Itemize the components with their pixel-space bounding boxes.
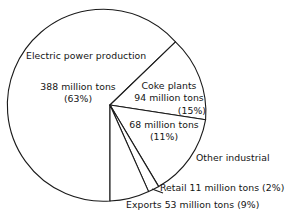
slice-value-electric-power-production: 388 million tons (63%): [26, 81, 130, 106]
slice-label-title: Retail 11 million tons (2%): [160, 182, 284, 194]
slice-label-title: Coke plants: [132, 80, 206, 92]
slice-value-tons: 94 million tons: [132, 92, 206, 104]
slice-label-retail: Retail 11 million tons (2%): [160, 182, 284, 194]
slice-label-title: Exports 53 million tons (9%): [126, 199, 259, 211]
slice-label-title: Electric power production: [26, 50, 146, 62]
slice-value-percent: (15%): [132, 105, 206, 117]
slice-value-percent: (63%): [26, 93, 130, 105]
slice-label-electric-power-production: Electric power production: [26, 50, 146, 62]
slice-value-tons: 388 million tons: [26, 81, 130, 93]
slice-label-coke-plants: Coke plants 94 million tons (15%): [132, 80, 206, 117]
slice-value-other-industrial: 68 million tons (11%): [126, 119, 202, 144]
slice-label-other-industrial: Other industrial: [196, 152, 270, 164]
slice-label-title: Other industrial: [196, 152, 270, 164]
slice-label-exports: Exports 53 million tons (9%): [126, 199, 259, 211]
pie-chart: Electric power production 388 million to…: [0, 0, 295, 222]
slice-value-tons: 68 million tons: [126, 119, 202, 131]
slice-value-percent: (11%): [126, 131, 202, 143]
